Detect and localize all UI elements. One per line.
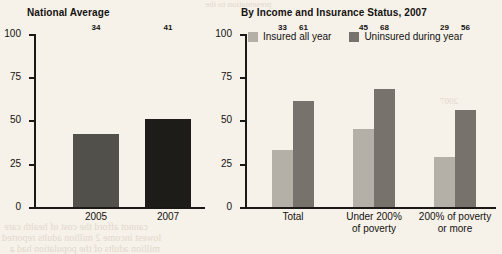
y-tick: 25 — [240, 164, 245, 166]
bar-series-container: 33 61 Total 45 68 — [247, 34, 496, 207]
bar-insured-all-year-under-200[interactable] — [353, 129, 374, 207]
x-axis — [34, 207, 205, 209]
bar-uninsured-during-year-under-200[interactable] — [374, 89, 395, 207]
chart-title-by-income-and-insurance-status: By Income and Insurance Status, 2007 — [241, 7, 427, 18]
y-tick-label: 75 — [10, 72, 21, 82]
bar-value-label: 56 — [461, 24, 470, 32]
y-tick: 100 — [240, 34, 245, 36]
bar-item[interactable]: 68 — [374, 34, 395, 207]
bar-item[interactable]: 61 — [293, 34, 314, 207]
y-tick: 0 — [29, 207, 34, 209]
y-tick-label: 75 — [221, 72, 232, 82]
bar-insured-all-year-200-or-more[interactable] — [434, 157, 455, 207]
bar-value-label: 29 — [440, 24, 449, 32]
bar-uninsured-during-year-200-or-more[interactable] — [455, 110, 476, 207]
y-tick: 100 — [29, 34, 34, 36]
bar-item[interactable]: 29 — [434, 34, 455, 207]
y-tick: 75 — [29, 77, 34, 79]
y-tick-label: 0 — [15, 202, 21, 212]
chart-panel-national-average: National Average 100 75 50 25 0 — [0, 0, 215, 248]
y-tick-label: 50 — [10, 115, 21, 125]
y-tick-label: 25 — [10, 159, 21, 169]
bar-group-total: 33 61 Total — [261, 34, 325, 207]
y-tick: 50 — [240, 120, 245, 122]
bar-item[interactable]: 33 — [272, 34, 293, 207]
chart-title-national-average: National Average — [27, 7, 110, 18]
bar-series-container: 34 2005 41 2007 — [36, 34, 205, 207]
bar-uninsured-during-year-total[interactable] — [293, 101, 314, 207]
bar-value-label: 41 — [164, 24, 173, 32]
bar-value-label: 61 — [299, 24, 308, 32]
bar-item[interactable]: 45 — [353, 34, 374, 207]
bar-value-label: 33 — [278, 24, 287, 32]
y-tick-label: 50 — [221, 115, 232, 125]
y-tick: 75 — [240, 77, 245, 79]
bar-2007[interactable] — [145, 119, 191, 207]
y-tick-label: 25 — [221, 159, 232, 169]
y-tick-label: 0 — [226, 202, 232, 212]
bar-item[interactable]: 34 — [73, 34, 119, 207]
y-tick: 25 — [29, 164, 34, 166]
bar-group-under-200-percent-of-poverty: 45 68 Under 200% of poverty — [342, 34, 406, 207]
bar-value-label: 68 — [380, 24, 389, 32]
bar-insured-all-year-total[interactable] — [272, 150, 293, 207]
y-tick-label: 100 — [4, 29, 21, 39]
plot-area-national-average: 100 75 50 25 0 34 2005 — [34, 34, 205, 209]
y-tick-label: 100 — [215, 29, 232, 39]
bar-group: 34 2005 — [68, 34, 124, 207]
bar-2005[interactable] — [73, 134, 119, 207]
chart-panel-by-income-and-insurance-status: By Income and Insurance Status, 2007 Ins… — [215, 0, 502, 248]
bar-group-200-percent-of-poverty-or-more: 29 56 200% of poverty or more — [423, 34, 487, 207]
bar-item[interactable]: 56 — [455, 34, 476, 207]
plot-area-by-income-and-insurance-status: 100 75 50 25 0 33 — [245, 34, 496, 209]
bar-item[interactable]: 41 — [145, 34, 191, 207]
bar-value-label: 45 — [359, 24, 368, 32]
x-axis — [245, 207, 496, 209]
bar-group: 41 2007 — [140, 34, 196, 207]
y-tick: 50 — [29, 120, 34, 122]
x-axis-category-label: 200% of poverty or more — [395, 211, 502, 234]
x-axis-category-label: 2007 — [118, 211, 218, 223]
bar-value-label: 34 — [92, 24, 101, 32]
y-tick: 0 — [240, 207, 245, 209]
